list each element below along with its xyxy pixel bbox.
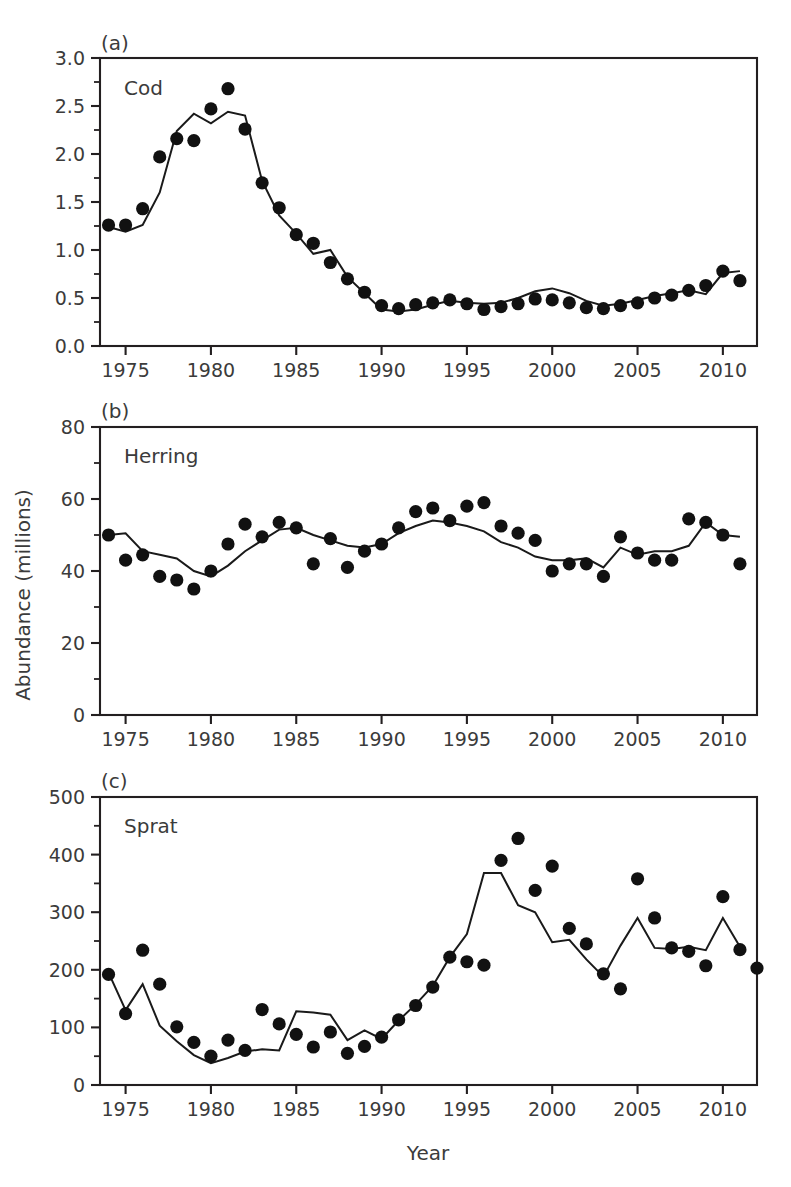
panel-a-data-point — [136, 202, 149, 215]
panel-c-data-point — [597, 967, 610, 980]
panel-c-data-point — [187, 1036, 200, 1049]
panel-b-data-point — [665, 554, 678, 567]
panel-a-data-point — [494, 300, 507, 313]
panel-c-x-tick-label: 1980 — [187, 1098, 235, 1120]
x-axis-title: Year — [406, 1141, 450, 1165]
panel-b-x-tick-label: 1980 — [187, 728, 235, 750]
panel-c-data-point — [648, 911, 661, 924]
panel-a-data-point — [699, 279, 712, 292]
panel-b-y-axis: 020406080 — [61, 416, 100, 726]
panel-a-data-point — [102, 218, 115, 231]
panel-a-data-point — [204, 102, 217, 115]
panel-c-x-tick-label: 1975 — [101, 1098, 149, 1120]
panel-c-data-point — [136, 944, 149, 957]
panel-b-herring: (b) Herring 020406080 197519801985199019… — [61, 399, 757, 750]
panel-a-data-point — [733, 274, 746, 287]
panel-a-data-point — [460, 297, 473, 310]
y-axis-title: Abundance (millions) — [11, 489, 35, 701]
panel-b-plot-frame — [100, 427, 757, 715]
panel-a-y-tick-label: 2.5 — [55, 95, 85, 117]
panel-b-data-point — [341, 561, 354, 574]
panel-c-x-tick-label: 1990 — [357, 1098, 405, 1120]
panel-b-data-point — [597, 570, 610, 583]
panel-a-y-tick-label: 1.5 — [55, 191, 85, 213]
panel-b-data-point — [238, 518, 251, 531]
panel-b-observed-points — [102, 496, 747, 596]
panel-a-x-tick-label: 1990 — [357, 359, 405, 381]
panel-c-x-axis: 19751980198519901995200020052010 — [101, 1085, 747, 1120]
panel-a-data-point — [187, 134, 200, 147]
panel-b-x-tick-label: 1990 — [357, 728, 405, 750]
panel-c-x-tick-label: 2010 — [699, 1098, 747, 1120]
panel-b-y-tick-label: 20 — [61, 632, 85, 654]
panel-a-y-tick-label: 1.0 — [55, 239, 85, 261]
panel-a-data-point — [256, 176, 269, 189]
panel-a-data-point — [631, 296, 644, 309]
panel-a-data-point — [307, 237, 320, 250]
panel-c-data-point — [477, 959, 490, 972]
panel-c-observed-points — [102, 832, 764, 1063]
panel-a-x-tick-label: 2000 — [528, 359, 576, 381]
panel-b-y-tick-label: 0 — [73, 704, 85, 726]
panel-b-x-tick-label: 2010 — [699, 728, 747, 750]
panel-a-data-point — [290, 228, 303, 241]
panel-c-data-point — [409, 999, 422, 1012]
panel-a-y-tick-label: 0.5 — [55, 287, 85, 309]
panel-a-data-point — [324, 256, 337, 269]
panel-b-data-point — [614, 530, 627, 543]
panel-b-data-point — [153, 570, 166, 583]
panel-b-x-tick-label: 1975 — [101, 728, 149, 750]
panel-a-data-point — [273, 201, 286, 214]
panel-b-y-tick-label: 40 — [61, 560, 85, 582]
panel-a-data-point — [119, 218, 132, 231]
panel-a-data-point — [392, 302, 405, 315]
panel-b-data-point — [256, 530, 269, 543]
panel-c-data-point — [256, 1003, 269, 1016]
panel-a-data-point — [716, 265, 729, 278]
panel-a-tag: (a) — [101, 31, 129, 55]
panel-c-data-point — [529, 884, 542, 897]
panel-a-data-point — [375, 299, 388, 312]
panel-c-y-tick-label: 500 — [49, 786, 85, 808]
panel-c-data-point — [665, 941, 678, 954]
panel-b-data-point — [273, 516, 286, 529]
panel-b-data-point — [477, 496, 490, 509]
panel-a-x-tick-label: 1985 — [272, 359, 320, 381]
panel-c-data-point — [443, 951, 456, 964]
panel-b-data-point — [443, 514, 456, 527]
panel-b-x-tick-label: 1985 — [272, 728, 320, 750]
panel-a-data-point — [426, 296, 439, 309]
panel-c-data-point — [614, 982, 627, 995]
panel-c-data-point — [170, 1020, 183, 1033]
panel-c-y-tick-label: 200 — [49, 959, 85, 981]
panel-a-data-point — [648, 291, 661, 304]
panel-b-data-point — [221, 537, 234, 550]
panel-a-series-label: Cod — [124, 76, 163, 100]
panel-b-data-point — [409, 505, 422, 518]
panel-a-x-tick-label: 2005 — [613, 359, 661, 381]
panel-a-x-tick-label: 1980 — [187, 359, 235, 381]
panel-a-data-point — [614, 299, 627, 312]
panel-b-data-point — [460, 500, 473, 513]
panel-b-data-point — [699, 516, 712, 529]
panel-b-data-point — [102, 528, 115, 541]
panel-a-data-point — [597, 302, 610, 315]
panel-c-data-point — [631, 872, 644, 885]
three-panel-abundance-figure: Abundance (millions) (a) Cod 0.00.51.01.… — [0, 0, 791, 1187]
panel-a-data-point — [665, 289, 678, 302]
panel-a-y-tick-label: 0.0 — [55, 335, 85, 357]
panel-b-data-point — [187, 582, 200, 595]
panel-b-series-label: Herring — [124, 444, 198, 468]
panel-a-data-point — [358, 286, 371, 299]
panel-b-data-point — [119, 554, 132, 567]
panel-c-data-point — [119, 1007, 132, 1020]
figure-container: Abundance (millions) (a) Cod 0.00.51.01.… — [0, 0, 791, 1187]
panel-c-model-line — [109, 873, 740, 1063]
panel-a-data-point — [682, 284, 695, 297]
panel-a-data-point — [477, 303, 490, 316]
panel-a-y-tick-label: 2.0 — [55, 143, 85, 165]
panel-c-sprat: (c) Sprat 0100200300400500 1975198019851… — [49, 769, 764, 1120]
panel-a-data-point — [238, 122, 251, 135]
panel-a-data-point — [409, 298, 422, 311]
panel-c-data-point — [307, 1040, 320, 1053]
